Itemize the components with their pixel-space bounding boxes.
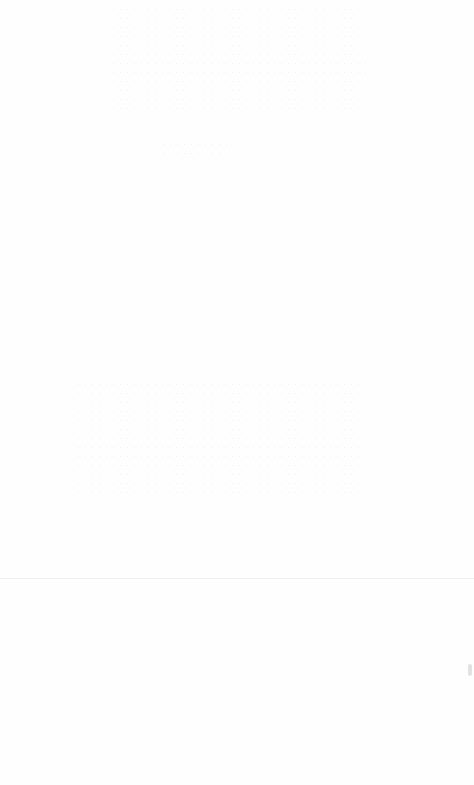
faded-content-top (110, 5, 370, 115)
faded-content-middle (75, 380, 365, 500)
scrollbar-thumb[interactable] (468, 664, 472, 676)
divider (0, 578, 474, 579)
faded-content-small (160, 140, 230, 160)
blank-page (0, 0, 474, 785)
